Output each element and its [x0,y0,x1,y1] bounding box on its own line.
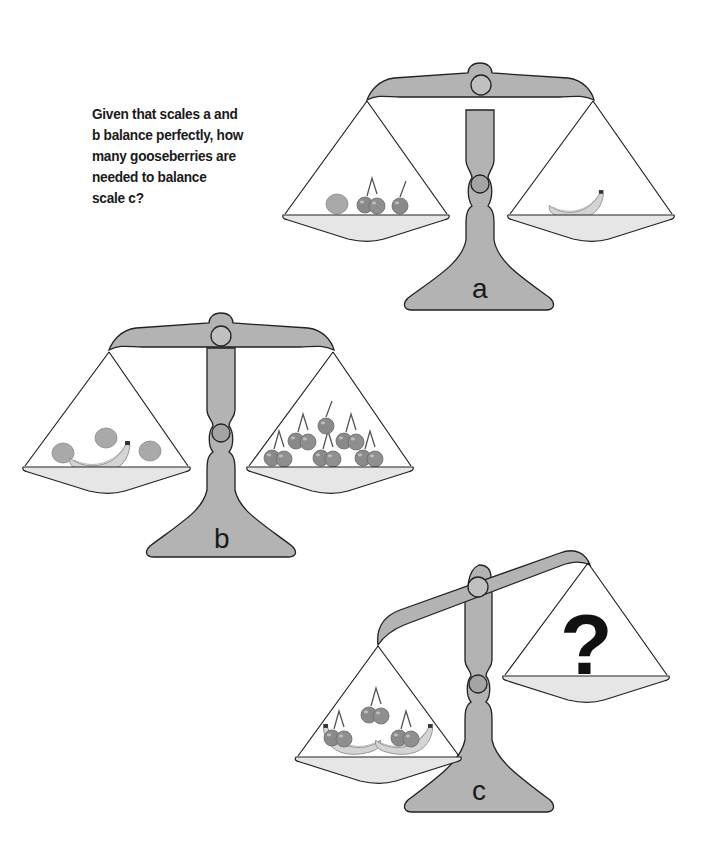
scale-b-left-pan [23,352,191,493]
scale-a-pivot [471,75,491,95]
scale-a: a [283,63,675,310]
scale-c-left-pan [295,646,461,783]
scale-c: ? c [295,551,669,812]
scale-a-right-pan [508,101,675,241]
scale-b-pivot [211,326,231,346]
scale-b-joint [212,424,230,442]
scale-c-label: c [472,775,486,806]
scale-b: b [23,313,414,557]
scale-b-label: b [214,523,230,554]
scales-illustration: a b [0,0,704,853]
scale-c-pivot [468,577,488,597]
scale-c-right-pan: ? [503,563,670,702]
scale-b-right-pan [247,352,414,493]
scale-a-label: a [472,273,488,304]
scale-a-joint [471,175,489,193]
scale-c-joint [469,675,487,693]
scale-a-left-pan [283,101,450,241]
